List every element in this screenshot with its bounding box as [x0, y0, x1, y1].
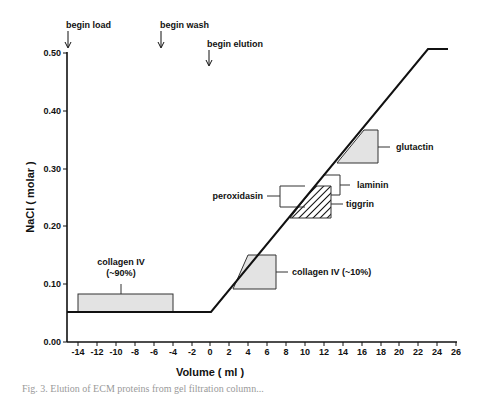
collagen-90-label-line1: collagen IV: [97, 257, 145, 267]
figure-caption: Fig. 3. Elution of ECM proteins from gel…: [22, 383, 264, 394]
x-tick-label: 2: [226, 347, 231, 357]
collagen-90-label-line2: (~90%): [106, 268, 135, 278]
begin-load-label: begin load: [66, 20, 111, 30]
y-tick-label: 0.00: [43, 337, 61, 347]
begin-elution-marker: begin elution: [206, 39, 263, 66]
begin-load-marker: begin load: [65, 20, 111, 48]
begin-elution-label: begin elution: [207, 39, 263, 49]
x-tick-label: -12: [90, 347, 103, 357]
x-axis: -14 -12 -10 -8 -6 -4 -2 0 2 4 6 8 10 12 …: [67, 342, 461, 378]
chart: 0.50 0.40 0.30 0.20 0.10 0.00 NaCl ( mol…: [0, 0, 485, 395]
x-tick-label: 4: [245, 347, 250, 357]
glutactin-label: glutactin: [396, 142, 434, 152]
laminin-bracket: laminin: [323, 175, 389, 195]
x-tick-label: 12: [319, 347, 329, 357]
x-tick-label: 10: [300, 347, 310, 357]
y-tick-label: 0.10: [43, 279, 61, 289]
collagen-10-label: collagen IV (~10%): [292, 267, 371, 277]
peroxidasin-label: peroxidasin: [212, 191, 263, 201]
x-axis-title: Volume ( ml ): [176, 366, 245, 378]
x-tick-label: -10: [109, 347, 122, 357]
peroxidasin-bracket: peroxidasin: [212, 186, 305, 207]
x-tick-label: 20: [394, 347, 404, 357]
tiggrin-label: tiggrin: [346, 199, 374, 209]
x-tick-label: 8: [283, 347, 288, 357]
y-tick-label: 0.30: [43, 164, 61, 174]
y-tick-label: 0.50: [43, 48, 61, 58]
begin-wash-label: begin wash: [160, 20, 209, 30]
x-tick-label: 22: [413, 347, 423, 357]
begin-wash-marker: begin wash: [158, 20, 209, 48]
collagen-90-region: collagen IV (~90%): [78, 257, 173, 312]
laminin-label: laminin: [357, 180, 389, 190]
y-axis-title: NaCl ( molar ): [24, 161, 36, 233]
y-axis: 0.50 0.40 0.30 0.20 0.10 0.00 NaCl ( mol…: [24, 48, 67, 347]
x-tick-label: -8: [131, 347, 139, 357]
x-tick-label: -14: [71, 347, 84, 357]
y-tick-label: 0.20: [43, 221, 61, 231]
x-tick-label: -6: [150, 347, 158, 357]
x-tick-label: 26: [451, 347, 461, 357]
x-tick-label: 16: [357, 347, 367, 357]
x-tick-label: 0: [207, 347, 212, 357]
x-tick-label: -4: [169, 347, 177, 357]
x-tick-label: 14: [338, 347, 348, 357]
y-tick-label: 0.40: [43, 106, 61, 116]
x-tick-label: 6: [264, 347, 269, 357]
glutactin-region: glutactin: [337, 130, 434, 163]
x-tick-label: 24: [432, 347, 442, 357]
x-tick-label: -2: [188, 347, 196, 357]
x-tick-label: 18: [376, 347, 386, 357]
